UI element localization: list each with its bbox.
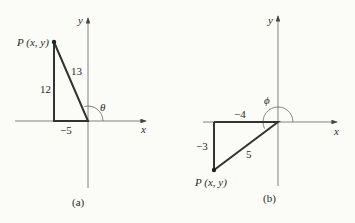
vertical-leg-label-b: −3 xyxy=(196,140,208,152)
angle-label-theta: θ xyxy=(100,101,106,113)
diagram-canvas: x y θ P (x, y) 13 12 −5 (a) x y ϕ −4 −3 … xyxy=(0,0,355,223)
panel-b: x y ϕ −4 −3 5 P (x, y) (b) xyxy=(194,14,339,205)
x-axis-label-b: x xyxy=(333,125,339,137)
caption-b: (b) xyxy=(263,192,276,205)
y-axis-label-b: y xyxy=(267,14,273,26)
y-axis-label-a: y xyxy=(77,14,83,26)
horizontal-leg-label-a: −5 xyxy=(60,124,72,136)
panel-a: x y θ P (x, y) 13 12 −5 (a) xyxy=(15,14,146,209)
point-p-b xyxy=(212,168,216,172)
triangle-b xyxy=(214,122,278,170)
caption-a: (a) xyxy=(72,196,85,209)
horizontal-leg-label-b: −4 xyxy=(234,108,246,120)
point-p-a xyxy=(52,40,56,44)
hypotenuse-label-b: 5 xyxy=(246,148,252,160)
hypotenuse-label-a: 13 xyxy=(71,65,83,77)
vertical-leg-label-a: 12 xyxy=(40,83,51,95)
angle-label-phi: ϕ xyxy=(264,94,270,106)
point-label-a: P (x, y) xyxy=(16,36,49,49)
triangle-a xyxy=(54,42,88,121)
x-axis-label-a: x xyxy=(140,123,146,135)
point-label-b: P (x, y) xyxy=(194,176,227,189)
